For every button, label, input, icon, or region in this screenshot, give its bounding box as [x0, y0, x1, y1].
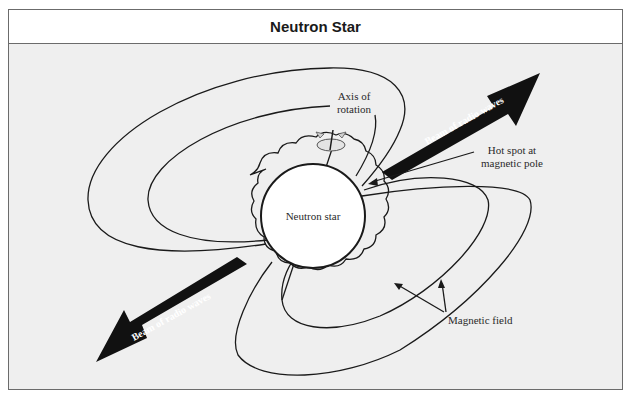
field-pointer-1 — [398, 285, 444, 312]
star-label: Neutron star — [286, 210, 341, 222]
beam-arrow-lower: Beam of radio waves — [96, 257, 247, 362]
hotspot-label-line2: magnetic pole — [481, 157, 543, 169]
field-label: Magnetic field — [448, 314, 513, 326]
field-arrowhead-2 — [438, 279, 445, 288]
hotspot-arrowhead — [368, 178, 378, 186]
hotspot-label-line1: Hot spot at — [488, 144, 536, 156]
neutron-star-diagram: Neutron star Axis of rotation Beam of ra… — [0, 0, 637, 402]
axis-label-line1: Axis of — [338, 90, 371, 102]
axis-label-line2: rotation — [337, 103, 372, 115]
